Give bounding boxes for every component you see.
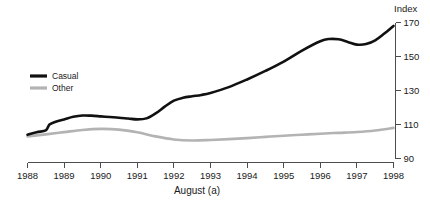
legend-label-casual: Casual	[52, 71, 79, 81]
y-axis-tick-labels: 17015013011090	[404, 17, 420, 164]
y-tick-label: 130	[404, 85, 420, 96]
y-axis-ticks	[396, 23, 401, 159]
legend-label-other: Other	[52, 83, 73, 93]
y-tick-label: 110	[404, 119, 419, 130]
x-tick-label: 1995	[273, 170, 294, 181]
series-lines	[28, 26, 394, 141]
x-axis-ticks	[28, 163, 394, 168]
x-tick-label: 1997	[346, 170, 367, 181]
x-axis-title: August (a)	[174, 185, 220, 196]
x-tick-label: 1992	[163, 170, 184, 181]
y-tick-label: 150	[404, 51, 420, 62]
y-axis-unit-label: Index	[394, 3, 417, 14]
chart-screenshot: 17015013011090 1988198919901991199219931…	[0, 0, 430, 207]
x-tick-label: 1998	[383, 170, 404, 181]
x-tick-label: 1989	[54, 170, 75, 181]
series-line-casual	[28, 26, 394, 135]
x-axis-tick-labels: 1988198919901991199219931994199519961997…	[17, 170, 404, 181]
chart-legend: CasualOther	[30, 71, 79, 93]
y-tick-label: 170	[404, 17, 420, 28]
x-tick-label: 1990	[90, 170, 111, 181]
line-chart: 17015013011090 1988198919901991199219931…	[0, 0, 430, 207]
x-tick-label: 1988	[17, 170, 38, 181]
x-tick-label: 1996	[310, 170, 331, 181]
x-tick-label: 1993	[200, 170, 221, 181]
x-tick-label: 1991	[127, 170, 148, 181]
y-tick-label: 90	[404, 153, 415, 164]
x-tick-label: 1994	[237, 170, 258, 181]
series-line-other	[28, 128, 394, 141]
